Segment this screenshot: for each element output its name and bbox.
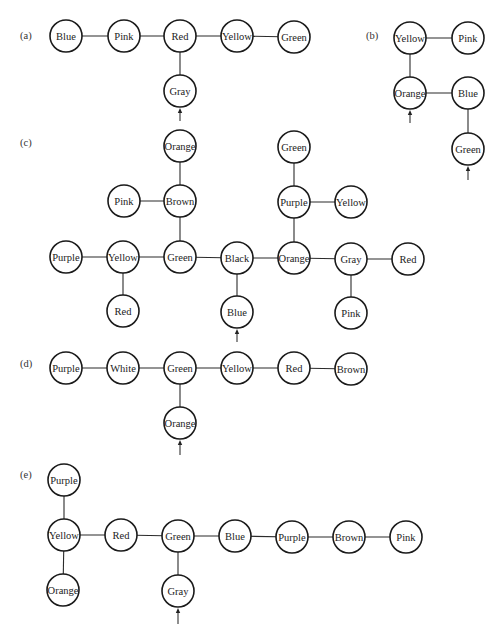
node-gray: Gray — [162, 575, 194, 607]
node-label: Yellow — [222, 363, 252, 374]
node-yellow: Yellow — [221, 20, 253, 52]
node-blue: Blue — [50, 20, 82, 52]
node-label: Purple — [52, 363, 80, 374]
node-label: Orange — [279, 253, 310, 264]
node-green: Green — [278, 131, 310, 163]
node-label: Red — [113, 530, 131, 541]
node-label: Yellow — [108, 252, 138, 263]
node-purple: Purple — [50, 241, 82, 273]
node-label: Purple — [278, 532, 306, 543]
panel-label: (b) — [366, 30, 379, 42]
node-red: Red — [392, 243, 424, 275]
node-label: Orange — [165, 141, 196, 152]
node-label: Purple — [50, 475, 78, 486]
node-green: Green — [164, 241, 196, 273]
node-yellow: Yellow — [394, 22, 426, 54]
node-orange: Orange — [394, 77, 426, 109]
node-label: Brown — [335, 532, 364, 543]
panel-e: (e)PurpleYellowRedGreenBluePurpleBrownPi… — [20, 464, 422, 624]
panel-a: (a)BluePinkRedYellowGreenGray — [20, 20, 310, 121]
up-arrow-icon — [466, 166, 470, 180]
node-label: Pink — [458, 33, 478, 44]
node-label: Green — [281, 32, 307, 43]
node-label: Green — [167, 252, 193, 263]
node-label: Red — [400, 254, 418, 265]
node-label: Green — [281, 142, 307, 153]
up-arrow-icon — [176, 608, 180, 624]
node-label: Red — [115, 306, 133, 317]
node-label: Orange — [395, 88, 426, 99]
node-label: Brown — [337, 364, 366, 375]
node-label: Purple — [52, 252, 80, 263]
node-black: Black — [221, 242, 253, 274]
node-red: Red — [278, 352, 310, 384]
node-green: Green — [162, 520, 194, 552]
up-arrow-icon — [178, 108, 182, 121]
node-yellow: Yellow — [335, 186, 367, 218]
node-green: Green — [452, 133, 484, 165]
node-orange: Orange — [47, 574, 79, 606]
node-yellow: Yellow — [48, 519, 80, 551]
node-label: Purple — [280, 197, 308, 208]
node-label: Yellow — [222, 31, 252, 42]
panel-label: (a) — [20, 30, 32, 42]
node-purple: Purple — [276, 521, 308, 553]
graph-diagram: (a)BluePinkRedYellowGreenGray(b)YellowPi… — [0, 0, 501, 635]
node-label: Red — [172, 31, 190, 42]
node-label: Pink — [396, 532, 416, 543]
node-red: Red — [105, 519, 137, 551]
node-label: Blue — [227, 307, 247, 318]
node-pink: Pink — [108, 185, 140, 217]
node-label: Green — [167, 363, 193, 374]
panel-c: (c)OrangeBrownPinkPurpleYellowGreenBlack… — [20, 130, 424, 342]
node-red: Red — [107, 295, 139, 327]
node-label: Green — [165, 531, 191, 542]
panel-label: (c) — [20, 137, 32, 149]
node-purple: Purple — [48, 464, 80, 496]
panel-b: (b)YellowPinkOrangeBlueGreen — [366, 22, 484, 180]
panel-label: (d) — [20, 358, 33, 370]
node-label: Yellow — [395, 33, 425, 44]
node-orange: Orange — [164, 130, 196, 162]
node-label: Green — [455, 144, 481, 155]
node-label: Blue — [56, 31, 76, 42]
node-pink: Pink — [108, 20, 140, 52]
node-label: Black — [225, 253, 250, 264]
node-blue: Blue — [219, 520, 251, 552]
node-label: Gray — [168, 586, 190, 597]
node-green: Green — [278, 21, 310, 53]
node-label: Orange — [48, 585, 79, 596]
node-pink: Pink — [390, 521, 422, 553]
node-yellow: Yellow — [221, 352, 253, 384]
node-purple: Purple — [50, 352, 82, 384]
node-label: Pink — [114, 196, 134, 207]
node-label: Gray — [170, 86, 192, 97]
node-brown: Brown — [335, 353, 367, 385]
node-label: Orange — [165, 418, 196, 429]
node-red: Red — [164, 20, 196, 52]
node-brown: Brown — [333, 521, 365, 553]
node-label: Yellow — [336, 197, 366, 208]
up-arrow-icon — [235, 329, 239, 342]
edges — [66, 146, 408, 313]
node-gray: Gray — [164, 75, 196, 107]
node-purple: Purple — [278, 186, 310, 218]
node-label: Blue — [458, 88, 478, 99]
node-orange: Orange — [278, 242, 310, 274]
node-yellow: Yellow — [107, 241, 139, 273]
node-white: White — [107, 352, 139, 384]
node-gray: Gray — [335, 243, 367, 275]
node-label: Pink — [114, 31, 134, 42]
node-label: Gray — [341, 254, 363, 265]
panel-label: (e) — [20, 469, 32, 481]
node-green: Green — [164, 352, 196, 384]
node-pink: Pink — [335, 297, 367, 329]
node-label: Red — [286, 363, 304, 374]
node-label: Brown — [166, 196, 195, 207]
up-arrow-icon — [408, 110, 412, 123]
panel-d: (d)PurpleWhiteGreenYellowRedBrownOrange — [20, 352, 367, 455]
node-label: White — [110, 363, 136, 374]
node-pink: Pink — [452, 22, 484, 54]
up-arrow-icon — [178, 440, 182, 455]
node-blue: Blue — [452, 77, 484, 109]
